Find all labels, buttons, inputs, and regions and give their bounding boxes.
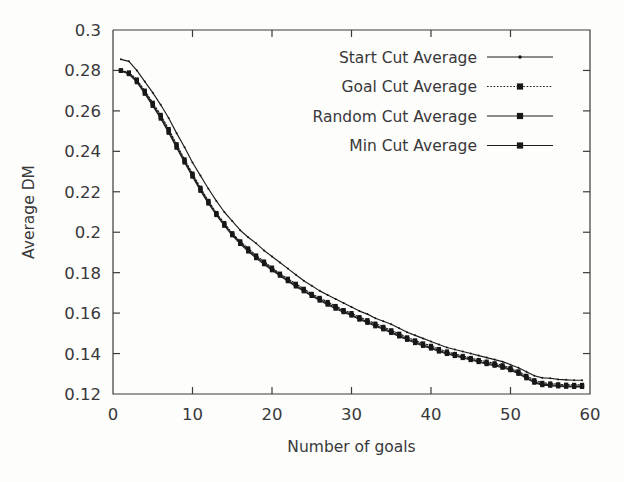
data-point-marker — [231, 220, 233, 222]
data-point-marker — [286, 279, 290, 283]
y-tick-label: 0.24 — [64, 142, 101, 161]
data-point-marker — [326, 303, 330, 307]
data-point-marker — [311, 285, 313, 287]
data-point-marker — [198, 189, 202, 193]
data-point-marker — [127, 72, 131, 76]
data-point-marker — [120, 58, 122, 60]
data-point-marker — [421, 344, 425, 348]
data-point-marker — [462, 351, 464, 353]
x-tick-label: 50 — [500, 405, 521, 424]
data-point-marker — [549, 377, 551, 379]
data-point-marker — [486, 357, 488, 359]
data-point-marker — [334, 307, 338, 311]
data-point-marker — [557, 378, 559, 380]
data-point-marker — [366, 313, 368, 315]
data-point-marker — [382, 320, 384, 322]
data-point-marker — [262, 262, 266, 266]
data-point-marker — [176, 132, 178, 134]
data-point-marker — [294, 284, 298, 288]
data-point-marker — [192, 161, 194, 163]
data-point-marker — [271, 255, 273, 257]
data-point-marker — [335, 298, 337, 300]
x-tick-label: 10 — [182, 405, 203, 424]
data-point-marker — [341, 310, 345, 314]
data-point-marker — [239, 229, 241, 231]
data-point-marker — [525, 371, 527, 373]
data-point-marker — [581, 379, 583, 381]
x-tick-label: 30 — [341, 405, 362, 424]
data-point-marker — [381, 327, 385, 331]
x-tick-label: 60 — [580, 405, 601, 424]
data-point-marker — [533, 375, 535, 377]
data-point-marker — [477, 360, 481, 364]
data-point-marker — [302, 289, 306, 293]
legend-marker-2 — [517, 113, 523, 119]
data-point-marker — [500, 366, 504, 370]
data-point-marker — [502, 361, 504, 363]
data-point-marker — [508, 368, 512, 372]
data-point-marker — [454, 349, 456, 351]
data-point-marker — [349, 313, 353, 317]
line-chart: 0.120.140.160.180.20.220.240.260.280.301… — [0, 0, 624, 482]
data-point-marker — [414, 334, 416, 336]
data-point-marker — [318, 298, 322, 302]
y-tick-label: 0.18 — [64, 264, 101, 283]
data-point-marker — [470, 353, 472, 355]
data-point-marker — [214, 213, 218, 217]
data-point-marker — [255, 242, 257, 244]
data-point-marker — [406, 331, 408, 333]
data-point-marker — [230, 233, 234, 237]
data-point-marker — [270, 268, 274, 272]
chart-figure: 0.120.140.160.180.20.220.240.260.280.301… — [0, 0, 624, 482]
data-point-marker — [532, 381, 536, 385]
data-point-marker — [373, 324, 377, 328]
data-point-marker — [310, 294, 314, 298]
data-point-marker — [159, 116, 163, 120]
data-point-marker — [437, 349, 441, 353]
data-point-marker — [573, 379, 575, 381]
y-tick-label: 0.2 — [75, 223, 101, 242]
y-tick-label: 0.16 — [64, 304, 101, 323]
data-point-marker — [485, 362, 489, 366]
data-point-marker — [135, 80, 139, 84]
data-point-marker — [247, 236, 249, 238]
data-point-marker — [119, 69, 123, 73]
data-point-marker — [351, 306, 353, 308]
data-point-marker — [327, 294, 329, 296]
data-point-marker — [206, 201, 210, 205]
data-point-marker — [160, 104, 162, 106]
data-point-marker — [279, 262, 281, 264]
legend-label-2: Random Cut Average — [313, 108, 477, 126]
data-point-marker — [168, 117, 170, 119]
data-point-marker — [469, 358, 473, 362]
data-point-marker — [405, 338, 409, 342]
legend-label-1: Goal Cut Average — [341, 78, 477, 96]
data-point-marker — [556, 384, 560, 388]
data-point-marker — [446, 346, 448, 348]
y-axis-title: Average DM — [20, 165, 38, 259]
data-point-marker — [136, 69, 138, 71]
data-point-marker — [461, 356, 465, 360]
data-point-marker — [565, 379, 567, 381]
data-point-marker — [151, 104, 155, 108]
x-tick-label: 20 — [262, 405, 283, 424]
data-point-marker — [413, 341, 417, 345]
data-point-marker — [190, 175, 194, 179]
y-tick-label: 0.22 — [64, 183, 101, 202]
y-tick-label: 0.14 — [64, 345, 101, 364]
data-point-marker — [494, 359, 496, 361]
y-tick-label: 0.12 — [64, 385, 101, 404]
data-point-marker — [287, 268, 289, 270]
data-point-marker — [144, 81, 146, 83]
legend-marker-1 — [517, 83, 523, 89]
data-point-marker — [510, 364, 512, 366]
legend-label-3: Min Cut Average — [349, 137, 477, 155]
data-point-marker — [517, 367, 519, 369]
data-point-marker — [540, 383, 544, 387]
data-point-marker — [238, 242, 242, 246]
data-point-marker — [564, 385, 568, 389]
data-point-marker — [278, 274, 282, 278]
data-point-marker — [389, 331, 393, 335]
y-tick-label: 0.28 — [64, 61, 101, 80]
data-point-marker — [358, 310, 360, 312]
